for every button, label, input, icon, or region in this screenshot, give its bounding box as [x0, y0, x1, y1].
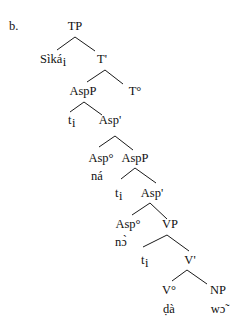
tree-node-na: ná [91, 169, 103, 183]
tree-nodes: TPSìkáiT'AspPT°tiAsp'Asp°náAspPtiAsp'Asp… [40, 19, 230, 316]
tree-node-Asp0a: Asp° [88, 151, 113, 165]
tree-node-wo: wɔ̃ [211, 302, 231, 316]
index-subscript: i [63, 55, 67, 69]
tree-edge-Aspbar1-Asp0a [99, 136, 115, 147]
tree-edge-Tbar-T0 [105, 70, 123, 84]
syntax-tree-diagram: b. TPSìkáiT'AspPT°tiAsp'Asp°náAspPtiAsp'… [0, 0, 233, 324]
tree-edge-AspP2-Aspbar2 [135, 168, 156, 183]
tree-node-da: ḍà [163, 302, 175, 316]
example-label: b. [9, 19, 18, 33]
tree-node-AspP1: AspP [69, 84, 96, 98]
tree-edge-Tbar-AspP1 [87, 70, 105, 82]
tree-edge-VP-t3 [143, 235, 167, 247]
index-subscript: i [72, 116, 76, 130]
tree-node-VP: VP [162, 217, 178, 231]
tree-edge-AspP2-t2 [121, 168, 135, 179]
tree-node-V0: V° [162, 283, 176, 297]
tree-edge-Vbar-V0 [172, 270, 187, 281]
tree-node-AspP2: AspP [121, 151, 148, 165]
tree-edge-AspP1-t1 [70, 102, 84, 112]
tree-edge-Vbar-NP [187, 270, 207, 284]
tree-node-Sika: Sìkái [40, 52, 67, 69]
tree-edge-TP-Sika [57, 37, 75, 50]
tree-node-Aspbar2: Asp' [141, 186, 163, 200]
tree-edge-VP-Vbar [167, 235, 189, 251]
tree-node-no: nɔ̀ [115, 235, 127, 249]
tree-node-T0: T° [129, 84, 142, 98]
tree-node-t1: ti [68, 113, 76, 130]
index-subscript: i [119, 189, 123, 203]
tree-node-Aspbar1: Asp' [99, 113, 121, 127]
tree-node-Vbar: V' [184, 253, 195, 267]
index-subscript: i [145, 256, 149, 270]
tree-edge-Aspbar2-Asp0b [132, 203, 150, 215]
tree-node-Tbar: T' [97, 52, 107, 66]
tree-node-Asp0b: Asp° [115, 217, 140, 231]
tree-node-TP: TP [68, 19, 83, 33]
tree-node-t3: ti [141, 253, 149, 270]
tree-edge-TP-Tbar [75, 37, 95, 51]
tree-node-t2: ti [115, 186, 123, 203]
tree-edge-Aspbar1-AspP2 [115, 136, 133, 150]
tree-node-NP: NP [210, 283, 226, 297]
